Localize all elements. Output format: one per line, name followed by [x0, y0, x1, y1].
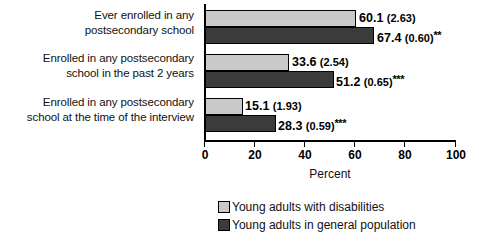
category-label-1-line-1: school in the past 2 years — [0, 66, 194, 81]
bar-label-stars-general-1: *** — [393, 73, 404, 85]
bar-disabilities-2 — [205, 98, 243, 115]
bar-label-value-general-0: 67.4 — [377, 31, 401, 45]
bar-label-se-disabilities-0: (2.63) — [387, 12, 416, 24]
bar-label-stars-general-0: ** — [434, 29, 442, 41]
x-tick-100 — [455, 142, 456, 147]
category-label-2: Enrolled in any postsecondary school at … — [0, 95, 194, 124]
x-tick-60 — [354, 142, 355, 147]
category-label-1-line-0: Enrolled in any postsecondary — [0, 51, 194, 66]
category-label-2-line-0: Enrolled in any postsecondary — [0, 95, 194, 110]
bar-disabilities-0 — [205, 10, 356, 27]
legend-item-disabilities: Young adults with disabilities — [218, 198, 416, 216]
bar-label-general-2: 28.3 (0.59)*** — [278, 115, 346, 135]
x-tick-40 — [304, 142, 305, 147]
bar-label-disabilities-2: 15.1 (1.93) — [245, 98, 302, 115]
legend-swatch-icon-general — [218, 219, 230, 231]
x-axis-line — [204, 140, 456, 142]
bar-label-stars-general-2: *** — [335, 117, 346, 129]
x-tick-20 — [254, 142, 255, 147]
x-tick-label-80: 80 — [388, 148, 422, 162]
bar-general-2 — [205, 115, 276, 132]
legend-label-disabilities: Young adults with disabilities — [232, 200, 384, 215]
bar-label-general-1: 51.2 (0.65)*** — [336, 71, 404, 91]
bar-label-value-general-1: 51.2 — [336, 75, 360, 89]
bar-label-se-general-1: (0.65) — [364, 76, 393, 88]
x-tick-0 — [204, 142, 205, 147]
category-label-1: Enrolled in any postsecondary school in … — [0, 51, 194, 80]
x-tick-label-40: 40 — [288, 148, 322, 162]
legend-swatch-icon-disabilities — [218, 201, 230, 213]
bar-label-value-disabilities-1: 33.6 — [292, 55, 316, 69]
bar-label-disabilities-1: 33.6 (2.54) — [292, 54, 349, 71]
x-tick-80 — [404, 142, 405, 147]
bar-general-1 — [205, 71, 334, 88]
category-label-2-line-1: school at the time of the interview — [0, 110, 194, 125]
x-axis-title: Percent — [204, 167, 456, 182]
bar-chart: Ever enrolled in any postsecondary schoo… — [0, 0, 479, 244]
plot-area: 0 20 40 60 80 100 60.1 (2.63) 67.4 (0.60… — [204, 4, 479, 140]
bar-label-se-general-2: (0.59) — [306, 120, 335, 132]
bar-label-value-disabilities-0: 60.1 — [359, 11, 383, 25]
bar-label-general-0: 67.4 (0.60)** — [377, 27, 441, 47]
bar-label-value-general-2: 28.3 — [278, 119, 302, 133]
x-tick-label-60: 60 — [338, 148, 372, 162]
bar-label-se-disabilities-2: (1.93) — [273, 100, 302, 112]
category-label-0-line-0: Ever enrolled in any — [0, 8, 194, 23]
legend-label-general: Young adults in general population — [232, 218, 416, 233]
chart-legend: Young adults with disabilities Young adu… — [218, 198, 416, 234]
x-tick-label-0: 0 — [188, 148, 222, 162]
x-tick-label-100: 100 — [439, 148, 473, 162]
legend-item-general: Young adults in general population — [218, 216, 416, 234]
bar-disabilities-1 — [205, 54, 289, 71]
bar-label-se-disabilities-1: (2.54) — [320, 56, 349, 68]
category-label-0-line-1: postsecondary school — [0, 23, 194, 38]
bar-label-se-general-0: (0.60) — [405, 32, 434, 44]
bar-label-value-disabilities-2: 15.1 — [245, 99, 269, 113]
bar-label-disabilities-0: 60.1 (2.63) — [359, 10, 416, 27]
x-tick-label-20: 20 — [238, 148, 272, 162]
bar-general-0 — [205, 27, 374, 44]
category-label-0: Ever enrolled in any postsecondary schoo… — [0, 8, 194, 37]
